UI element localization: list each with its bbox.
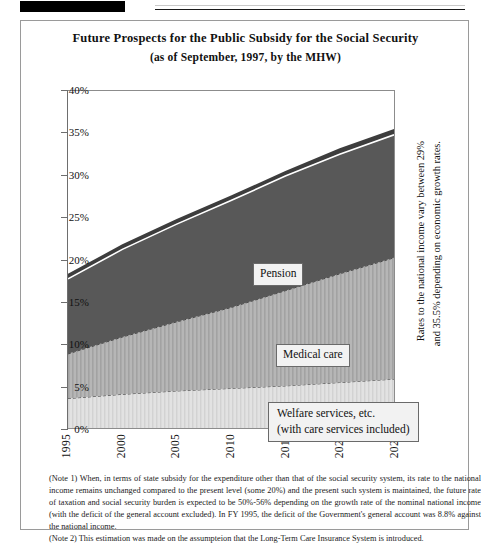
side-caption-line2: and 35.5% depending on economic growth r…	[432, 141, 443, 346]
series-label-medical: Medical care	[276, 344, 350, 367]
figure-notes: (Note 1) When, in terms of state subsidy…	[49, 473, 481, 545]
series-label-welfare-line2: (with care services included)	[277, 422, 410, 438]
series-label-welfare-line1: Welfare services, etc.	[277, 406, 410, 422]
redaction-bar	[20, 1, 125, 12]
page-header	[0, 0, 471, 20]
side-caption: Rates to the national income vary betwee…	[402, 141, 454, 401]
note-1: (Note 1) When, in terms of state subsidy…	[49, 473, 481, 533]
header-rule	[155, 9, 465, 10]
note-2: (Note 2) This estimation was made on the…	[49, 533, 481, 545]
header-rule-faint	[155, 5, 465, 6]
x-tick-label-1995: 1995	[60, 434, 72, 458]
side-caption-line1: Rates to the national income vary betwee…	[416, 141, 427, 341]
x-tick-label-2005: 2005	[169, 434, 181, 458]
chart-area: 0%5%10%15%20%25%30%35%40% 19952000200520…	[21, 21, 470, 461]
figure-container: Future Prospects for the Public Subsidy …	[20, 20, 469, 530]
series-label-welfare: Welfare services, etc. (with care servic…	[268, 402, 419, 442]
series-label-pension: Pension	[253, 263, 303, 286]
x-tick-label-2010: 2010	[224, 434, 236, 458]
x-tick-label-2000: 2000	[115, 434, 127, 458]
